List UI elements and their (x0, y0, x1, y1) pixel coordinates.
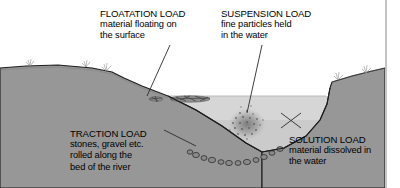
page-edge-strip (385, 0, 400, 188)
floatation-line-1: material floating on (100, 19, 185, 30)
traction-line-3: bed of the river (70, 162, 147, 173)
suspension-heading: SUSPENSION LOAD (221, 8, 311, 19)
traction-heading: TRACTION LOAD (70, 128, 147, 139)
label-traction-load: TRACTION LOAD stones, gravel etc. rolled… (70, 128, 147, 173)
suspension-line-1: fine particles held (221, 19, 311, 30)
solution-line-2: the water (289, 156, 371, 167)
floatation-heading: FLOATATION LOAD (100, 8, 185, 19)
solution-line-1: material dissolved in (289, 145, 371, 156)
label-suspension-load: SUSPENSION LOAD fine particles held in t… (221, 8, 311, 42)
label-solution-load: SOLUTION LOAD material dissolved in the … (289, 134, 371, 168)
solution-heading: SOLUTION LOAD (289, 134, 371, 145)
label-floatation-load: FLOATATION LOAD material floating on the… (100, 8, 185, 42)
debris-branch-main (170, 96, 210, 102)
floatation-line-2: the surface (100, 30, 185, 41)
traction-line-1: stones, gravel etc. (70, 139, 147, 150)
suspension-line-2: in the water (221, 30, 311, 41)
traction-line-2: rolled along the (70, 150, 147, 161)
figure-river-load: Fig 9.1 A river's load (0, 0, 400, 188)
